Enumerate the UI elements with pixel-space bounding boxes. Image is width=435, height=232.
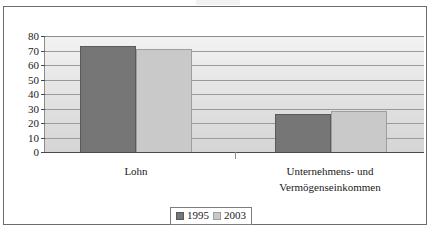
y-axis-tick-50 <box>41 80 45 81</box>
y-axis-tick-40 <box>41 94 45 95</box>
y-axis-tick-20 <box>41 123 45 124</box>
y-axis-tick-0 <box>41 152 45 153</box>
chart-legend: 1995 2003 <box>170 207 252 225</box>
y-axis-label-40: 40 <box>28 89 39 100</box>
bar-2003-0 <box>136 49 192 152</box>
y-axis-tick-60 <box>41 65 45 66</box>
y-axis-label-60: 60 <box>28 60 39 71</box>
y-axis-tick-10 <box>41 138 45 139</box>
bar-1995-0 <box>80 46 136 152</box>
legend-swatch-2003-icon <box>213 212 221 220</box>
x-axis-category-separator <box>235 152 236 159</box>
bar-2003-1 <box>331 111 387 152</box>
legend-swatch-1995-icon <box>176 212 184 220</box>
y-axis-label-30: 30 <box>28 103 39 114</box>
y-axis-tick-80 <box>41 36 45 37</box>
y-axis-label-70: 70 <box>28 45 39 56</box>
bar-1995-1 <box>275 114 331 152</box>
y-axis-tick-30 <box>41 109 45 110</box>
x-axis-category-label-1-line-0: Unternehmens- und <box>254 163 406 179</box>
legend-entry-1995: 1995 <box>176 209 209 222</box>
y-axis-label-50: 50 <box>28 74 39 85</box>
plot-area: 01020304050607080 <box>44 36 424 153</box>
gridline-80 <box>45 36 424 37</box>
legend-label-2003: 2003 <box>224 209 246 222</box>
legend-entry-2003: 2003 <box>213 209 246 222</box>
y-axis-label-80: 80 <box>28 31 39 42</box>
x-axis-category-label-0-line-0: Lohn <box>62 163 210 179</box>
y-axis-label-20: 20 <box>28 118 39 129</box>
scan-artifact <box>196 0 240 5</box>
y-axis-tick-70 <box>41 51 45 52</box>
y-axis-label-10: 10 <box>28 132 39 143</box>
x-axis-category-label-1: Unternehmens- undVermögenseinkommen <box>254 163 406 195</box>
x-axis-category-label-0: Lohn <box>62 163 210 179</box>
chart-figure-frame: 01020304050607080 Lohn Unternehmens- und… <box>3 6 427 225</box>
x-axis-category-label-1-line-1: Vermögenseinkommen <box>254 179 406 195</box>
legend-label-1995: 1995 <box>187 209 209 222</box>
y-axis-label-0: 0 <box>34 147 40 158</box>
